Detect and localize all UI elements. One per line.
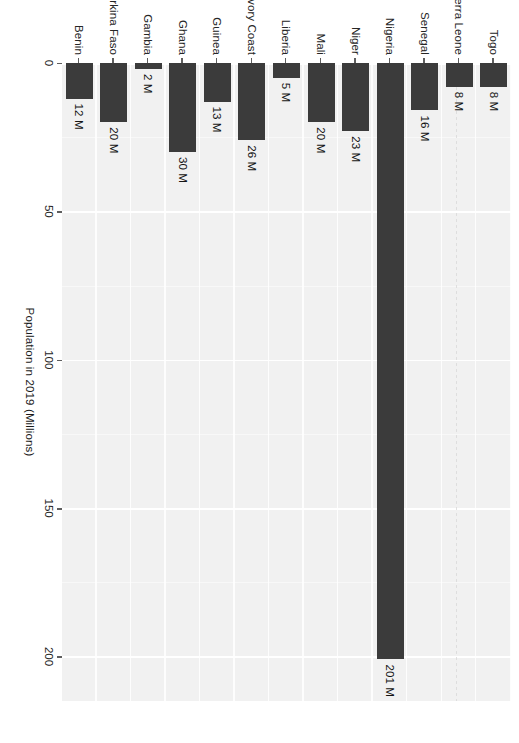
category-label: Senegal (419, 12, 431, 55)
bar-value-label: 201 M (384, 664, 396, 696)
category-tick (320, 58, 321, 63)
bar-series: 8 M8 M16 M201 M23 M20 M5 M26 M13 M30 M2 … (62, 63, 511, 701)
value-tick (57, 211, 62, 212)
rotated-figure-stage: 8 M8 M16 M201 M23 M20 M5 M26 M13 M30 M2 … (0, 0, 519, 743)
bar-value-label: 5 M (281, 83, 293, 102)
bar-value-label: 8 M (488, 92, 500, 111)
category-label: Mali (315, 34, 327, 56)
category-tick (423, 58, 424, 63)
bar-value-label: 20 M (315, 127, 327, 153)
category-tick (354, 58, 355, 63)
value-axis-title: Population in 2019 (Millions) (24, 308, 36, 457)
bar (204, 63, 231, 102)
value-tick-label: 100 (43, 350, 55, 369)
category-tick (216, 58, 217, 63)
bar (100, 63, 127, 122)
bar-value-label: 26 M (246, 145, 258, 171)
category-label: Nigeria (384, 18, 396, 55)
category-label: Benin (73, 25, 85, 55)
bar-value-label: 30 M (177, 157, 189, 183)
value-tick (57, 63, 62, 64)
bar-value-label: 16 M (419, 115, 431, 141)
category-label: Liberia (281, 20, 293, 55)
value-tick-label: 150 (43, 499, 55, 518)
bar-value-label: 20 M (108, 127, 120, 153)
bar (377, 63, 404, 659)
value-tick-label: 0 (43, 60, 55, 66)
category-label: Togo (488, 30, 500, 55)
bar (169, 63, 196, 152)
category-tick (78, 58, 79, 63)
bar-value-label: 23 M (350, 136, 362, 162)
category-label: Niger (350, 27, 362, 55)
value-tick (57, 360, 62, 361)
category-label: Ghana (177, 20, 189, 55)
bar (135, 63, 162, 69)
plot-panel: 8 M8 M16 M201 M23 M20 M5 M26 M13 M30 M2 … (62, 63, 511, 701)
category-tick (147, 58, 148, 63)
value-tick (57, 508, 62, 509)
category-label: Gambia (142, 14, 154, 55)
bar (411, 63, 438, 110)
bar-value-label: 13 M (211, 107, 223, 133)
bar (342, 63, 369, 131)
category-label: Sierra Leone (453, 0, 465, 55)
bar (446, 63, 473, 87)
value-tick-label: 200 (43, 647, 55, 666)
bar (480, 63, 507, 87)
category-tick (389, 58, 390, 63)
category-tick (458, 58, 459, 63)
category-tick (251, 58, 252, 63)
category-label: Guinea (211, 17, 223, 55)
category-label: Burkina Faso (108, 0, 120, 55)
category-tick (112, 58, 113, 63)
bar-value-label: 8 M (453, 92, 465, 111)
bar (273, 63, 300, 78)
category-tick (492, 58, 493, 63)
category-tick (182, 58, 183, 63)
bar (308, 63, 335, 122)
value-tick-label: 50 (43, 205, 55, 218)
bar-chart-figure: 8 M8 M16 M201 M23 M20 M5 M26 M13 M30 M2 … (0, 0, 519, 743)
category-tick (285, 58, 286, 63)
bar-value-label: 2 M (142, 74, 154, 93)
bar-value-label: 12 M (73, 104, 85, 130)
value-tick (57, 656, 62, 657)
bar (66, 63, 93, 99)
category-label: Ivory Coast (246, 0, 258, 55)
bar (239, 63, 266, 140)
